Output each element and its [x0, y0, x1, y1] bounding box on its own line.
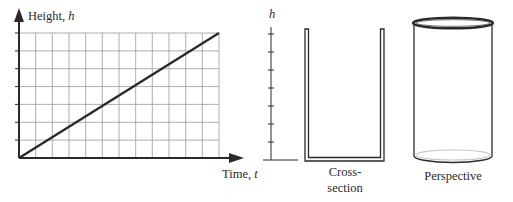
- y-axis-variable: h: [68, 9, 74, 23]
- x-axis-variable: t: [254, 167, 257, 181]
- y-axis-arrow-icon: [14, 8, 24, 22]
- x-axis-label-text: Time,: [222, 167, 254, 181]
- cross-section-caption-line2: section: [327, 182, 362, 195]
- perspective-cylinder: [413, 18, 493, 163]
- y-axis-label: Height, h: [28, 10, 75, 23]
- cross-section-axis-variable: h: [269, 7, 275, 21]
- cross-section-axis: [263, 27, 298, 160]
- cross-section-caption-line1: Cross-: [329, 166, 362, 179]
- x-axis-arrow-icon: [229, 153, 244, 163]
- perspective-caption: Perspective: [424, 170, 482, 183]
- y-axis-label-text: Height,: [28, 9, 68, 23]
- cross-section-axis-label: h: [269, 8, 275, 21]
- x-axis-label: Time, t: [222, 168, 258, 181]
- cross-section-container: [305, 29, 384, 161]
